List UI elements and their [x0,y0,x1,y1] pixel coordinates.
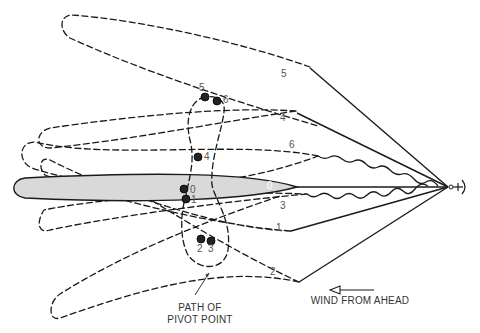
pivot-path-label: PATH OF PIVOT POINT [160,302,240,326]
hull-label-6: 6 [289,139,295,150]
hull-label-3: 3 [280,200,286,211]
pivot-markers [180,93,221,245]
anchor-rodes [291,68,448,282]
pivot-marker-0 [180,185,188,193]
pivot-label-3: 3 [208,243,214,254]
pivot-label-5: 5 [199,82,205,93]
pivot-marker-1 [182,195,190,203]
pivot-marker-5 [201,93,209,101]
hull-position-5 [62,15,318,126]
anchor-icon [449,180,465,194]
wind-label: WIND FROM AHEAD [300,295,420,307]
hull-label-0: 0 [267,180,273,191]
pivot-label-1: 1 [191,194,197,205]
hull-position-0 [14,174,297,200]
hull-position-4 [39,110,296,148]
hull-label-4: 4 [280,112,286,123]
pivot-label-6: 6 [223,94,229,105]
arrow-left-icon [330,286,374,294]
pivot-label-2: 2 [197,243,203,254]
hull-label-5: 5 [281,68,287,79]
anchor-swing-diagram: 5 6 4 0 1 2 3 5 4 6 0 3 1 2 [0,0,480,333]
pivot-label-4: 4 [204,151,210,162]
hull-label-2: 2 [270,266,276,277]
pivot-marker-6 [213,97,221,105]
hull-label-1: 1 [276,222,282,233]
pivot-path-label-line2: PIVOT POINT [160,314,240,326]
pivot-marker-2 [197,235,205,243]
pivot-marker-4 [194,153,202,161]
pivot-path-label-line1: PATH OF [160,302,240,314]
pivot-path-pointer [195,273,209,295]
